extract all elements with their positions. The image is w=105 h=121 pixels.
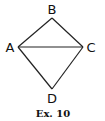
edge-cd xyxy=(52,47,83,89)
edge-bc xyxy=(52,18,83,47)
vertex-label-c: C xyxy=(86,40,95,55)
vertex-label-b: B xyxy=(48,2,57,17)
edge-ab xyxy=(18,18,52,47)
edge-da xyxy=(18,47,52,89)
vertex-label-a: A xyxy=(6,40,15,55)
figure-edges xyxy=(18,18,83,89)
figure-caption: Ex. 10 xyxy=(36,108,71,119)
geometry-diagram: B A C D Ex. 10 xyxy=(0,0,105,121)
vertex-label-d: D xyxy=(47,91,57,106)
